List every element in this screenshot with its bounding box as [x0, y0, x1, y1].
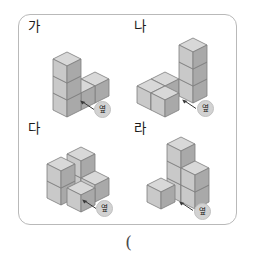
- arrow-up-left-icon: [178, 201, 194, 212]
- side-view-marker-label: 옆: [198, 101, 213, 116]
- figure-option-ga[interactable]: 가: [21, 17, 131, 122]
- answer-parenthesis: (: [0, 232, 257, 252]
- cube: [47, 157, 75, 188]
- figure-option-ra[interactable]: 라: [127, 119, 237, 224]
- arrow-up-left-icon: [81, 199, 97, 210]
- cube: [151, 86, 179, 117]
- cube-stack-da: [21, 119, 131, 224]
- side-view-marker-ga: 옆: [94, 101, 111, 118]
- side-view-marker-label: 옆: [195, 204, 210, 219]
- cube: [53, 52, 81, 83]
- cube: [179, 38, 207, 69]
- figure-option-da[interactable]: 다: [21, 119, 131, 224]
- arrow-up-left-icon: [181, 99, 197, 110]
- side-view-marker-label: 옆: [95, 102, 110, 117]
- cube: [147, 178, 175, 209]
- side-view-marker-da: 옆: [96, 200, 113, 217]
- side-view-marker-na: 옆: [197, 100, 214, 117]
- cube-stack-da-svg: [21, 119, 131, 224]
- problem-panel: 가: [18, 14, 237, 225]
- cube-stack-ga-svg: [21, 17, 131, 122]
- figure-option-na[interactable]: 나: [127, 17, 237, 122]
- side-view-marker-ra: 옆: [194, 203, 211, 220]
- side-view-marker-label: 옆: [97, 201, 112, 216]
- cube: [181, 161, 209, 192]
- arrow-up-left-icon: [79, 100, 95, 111]
- cube-stack-ga: [21, 17, 131, 122]
